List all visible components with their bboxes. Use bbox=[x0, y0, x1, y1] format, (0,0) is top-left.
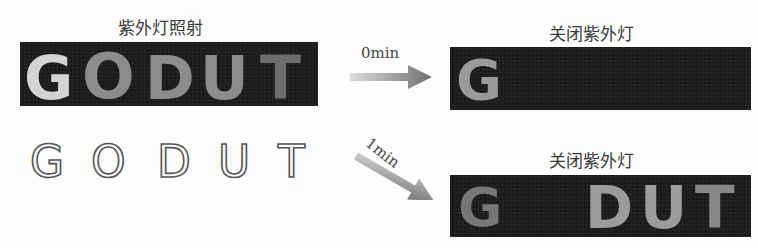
outline-letter-g: G bbox=[30, 140, 64, 184]
uv-on-caption: 紫外灯照射 bbox=[118, 14, 203, 39]
glow-letter-d: D bbox=[585, 179, 633, 237]
uv-off-caption-0min: 关闭紫外灯 bbox=[549, 20, 634, 45]
glow-letter-g: G bbox=[456, 52, 502, 108]
glow-letter-g: G bbox=[458, 181, 502, 235]
outline-letter-o: O bbox=[91, 140, 126, 184]
glow-letter-g: G bbox=[24, 48, 73, 106]
glow-letter-t: T bbox=[260, 48, 301, 106]
glow-letter-d: D bbox=[145, 48, 195, 106]
arrow-label-0min: 0min bbox=[361, 44, 399, 62]
arrow-down-right-icon bbox=[352, 150, 442, 200]
glow-letter-u: U bbox=[200, 48, 249, 106]
glow-letter-u: U bbox=[640, 179, 687, 237]
outline-letters: G O D U T bbox=[26, 140, 316, 190]
uv-on-panel: G O D U T bbox=[20, 42, 318, 106]
arrow-right-icon bbox=[350, 64, 432, 90]
uv-off-panel-1min: G D U T bbox=[450, 175, 751, 237]
outline-letter-t: T bbox=[278, 140, 305, 184]
outline-letter-d: D bbox=[157, 140, 191, 184]
uv-off-caption-1min: 关闭紫外灯 bbox=[549, 147, 634, 172]
outline-letter-u: U bbox=[218, 140, 250, 184]
uv-off-panel-0min: G bbox=[450, 47, 751, 110]
glow-letter-t: T bbox=[695, 179, 735, 237]
glow-letter-o: O bbox=[82, 46, 135, 106]
